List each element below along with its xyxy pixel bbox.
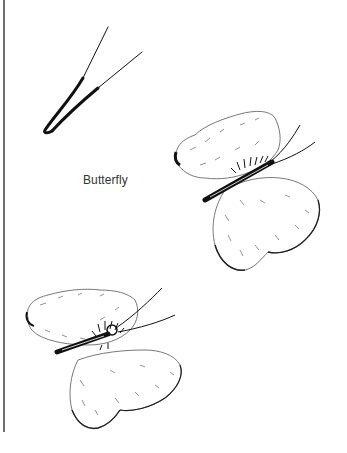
figure-caption: Butterfly [83,173,128,187]
butterfly-lower-left-icon [0,0,347,453]
document-page: Butterfly [0,0,347,453]
